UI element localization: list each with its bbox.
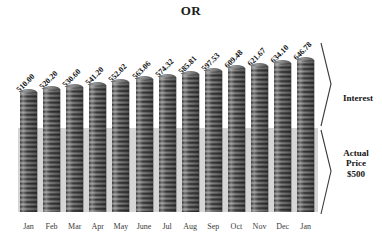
actual-price-line-2: Price bbox=[330, 158, 382, 168]
plot-area: 510.00520.20530.60541.20552.02563.06574.… bbox=[8, 40, 320, 215]
interest-annotation: Interest bbox=[334, 93, 382, 103]
coin-stack-bar bbox=[89, 85, 106, 212]
x-axis-tick-label: Jul bbox=[154, 222, 180, 231]
x-axis-tick-label: Jan bbox=[16, 222, 42, 231]
coin-stack-bar bbox=[159, 77, 176, 212]
x-axis-tick-label: Oct bbox=[223, 222, 249, 231]
coin-stack-shading bbox=[112, 82, 129, 212]
coin-stack-shading bbox=[66, 87, 83, 212]
x-axis-tick-label: Mar bbox=[62, 222, 88, 231]
coin-stack-shading bbox=[43, 89, 60, 212]
x-axis-tick-label: Aug bbox=[177, 222, 203, 231]
actual-price-line-3: $500 bbox=[330, 169, 382, 179]
coin-stack-bar bbox=[251, 66, 268, 212]
x-axis-tick-label: Feb bbox=[39, 222, 65, 231]
actual-price-line-1: Actual bbox=[330, 148, 382, 158]
coin-stack-shading bbox=[297, 60, 314, 212]
x-axis-tick-label: June bbox=[131, 222, 157, 231]
bracket-group bbox=[318, 40, 340, 220]
coin-stack-shading bbox=[228, 68, 245, 212]
coin-stack-bar bbox=[20, 92, 37, 212]
chart-root: OR 510.00520.20530.60541.20552.02563.065… bbox=[0, 0, 382, 242]
coin-stack-bar bbox=[205, 71, 222, 212]
x-axis-tick-label: Apr bbox=[85, 222, 111, 231]
coin-stack-shading bbox=[274, 63, 291, 212]
coin-stack-shading bbox=[89, 85, 106, 212]
x-axis-tick-label: Jan bbox=[293, 222, 319, 231]
coin-stack-bar bbox=[228, 68, 245, 212]
x-axis-labels: JanFebMarAprMayJuneJulAugSepOctNovDecJan bbox=[8, 222, 320, 238]
coin-stack-bar bbox=[182, 74, 199, 212]
coin-stack-bar bbox=[136, 79, 153, 212]
bracket-icon bbox=[318, 40, 340, 220]
coin-stack-bar bbox=[66, 87, 83, 212]
chart-title: OR bbox=[0, 3, 382, 19]
bars-layer: 510.00520.20530.60541.20552.02563.06574.… bbox=[8, 40, 320, 215]
coin-stack-shading bbox=[182, 74, 199, 212]
x-axis-tick-label: Nov bbox=[247, 222, 273, 231]
coin-stack-bar bbox=[297, 60, 314, 212]
x-axis-tick-label: May bbox=[108, 222, 134, 231]
coin-stack-shading bbox=[251, 66, 268, 212]
x-axis-tick-label: Sep bbox=[200, 222, 226, 231]
coin-stack-shading bbox=[159, 77, 176, 212]
coin-stack-shading bbox=[20, 92, 37, 212]
coin-stack-bar bbox=[274, 63, 291, 212]
actual-price-annotation: Actual Price $500 bbox=[330, 148, 382, 179]
coin-stack-bar bbox=[112, 82, 129, 212]
x-axis-tick-label: Dec bbox=[270, 222, 296, 231]
coin-stack-shading bbox=[136, 79, 153, 212]
coin-stack-shading bbox=[205, 71, 222, 212]
coin-stack-bar bbox=[43, 89, 60, 212]
